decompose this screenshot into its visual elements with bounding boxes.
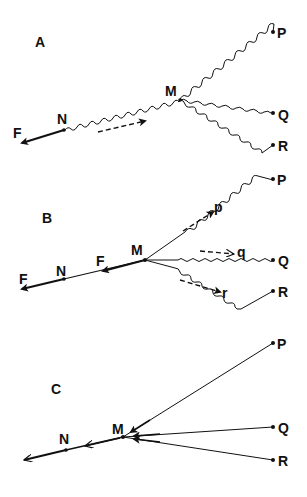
arrow-r-to-m bbox=[134, 439, 160, 442]
label-p: P bbox=[277, 25, 286, 41]
label-p: P bbox=[277, 336, 286, 352]
label-q-small: q bbox=[237, 244, 246, 260]
label-f-mid: F bbox=[96, 253, 105, 269]
dashed-arrow bbox=[98, 121, 145, 132]
label-q: Q bbox=[278, 253, 289, 269]
point-p bbox=[271, 30, 275, 34]
label-r: R bbox=[278, 453, 288, 469]
label-f-end: F bbox=[19, 271, 28, 287]
line-m-q bbox=[145, 259, 274, 262]
panel-label-c: C bbox=[51, 381, 61, 397]
force-diagram: A F N M P Q R B bbox=[0, 0, 307, 497]
force-arrow-f-mid bbox=[103, 260, 145, 271]
force-arrow-f-end bbox=[22, 279, 64, 289]
force-arrow-end bbox=[24, 450, 66, 460]
label-p: P bbox=[277, 172, 286, 188]
point-q bbox=[271, 111, 275, 115]
label-f: F bbox=[13, 125, 22, 141]
wavy-line-m-r bbox=[180, 100, 273, 153]
line-m-r bbox=[145, 260, 273, 309]
label-r: R bbox=[278, 284, 288, 300]
force-arrow-mid bbox=[85, 438, 120, 446]
label-m: M bbox=[165, 83, 177, 99]
label-q: Q bbox=[278, 107, 289, 123]
panel-a: A F N M P Q R bbox=[13, 24, 289, 155]
point-q bbox=[271, 425, 275, 429]
point-n bbox=[64, 448, 68, 452]
wavy-line-m-q bbox=[180, 99, 273, 113]
label-r: R bbox=[278, 138, 288, 154]
point-r bbox=[271, 458, 275, 462]
panel-b: B F N F M p q r P Q R bbox=[19, 172, 289, 309]
dashed-arrow-q bbox=[200, 251, 234, 254]
point-p bbox=[271, 341, 275, 345]
label-p-small: p bbox=[214, 199, 223, 215]
point-r bbox=[271, 143, 275, 147]
wavy-line-m-p bbox=[180, 24, 274, 101]
line-m-p bbox=[145, 175, 273, 260]
point-p bbox=[271, 177, 275, 181]
point-r bbox=[271, 289, 275, 293]
panel-label-b: B bbox=[42, 210, 52, 226]
label-m: M bbox=[112, 421, 124, 437]
panel-c: C N M P Q R bbox=[24, 336, 289, 469]
label-n: N bbox=[59, 431, 69, 447]
point-n bbox=[62, 128, 66, 132]
label-q: Q bbox=[278, 420, 289, 436]
label-m: M bbox=[131, 242, 143, 258]
arrow-p-to-m bbox=[131, 420, 150, 432]
point-m bbox=[143, 258, 147, 262]
label-n: N bbox=[57, 111, 67, 127]
arrow-q-to-m bbox=[134, 434, 160, 436]
label-r-small: r bbox=[222, 285, 228, 301]
force-arrow-f bbox=[22, 130, 64, 143]
point-q bbox=[271, 258, 275, 262]
label-n: N bbox=[56, 263, 66, 279]
panel-label-a: A bbox=[35, 34, 45, 50]
point-m bbox=[178, 98, 182, 102]
